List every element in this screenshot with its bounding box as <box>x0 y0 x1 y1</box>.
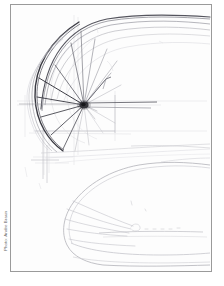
wheel-rim-arc <box>27 22 99 152</box>
horizon-lines <box>41 144 210 163</box>
scanned-sketch-frame <box>10 4 212 272</box>
wheel-hub <box>77 100 91 110</box>
screenshot-page: Photo: Andre Braun <box>0 0 224 286</box>
car-body-outline <box>64 158 210 266</box>
pencil-sketch-drawing <box>11 5 211 271</box>
photo-credit: Photo: Andre Braun <box>3 199 9 263</box>
construction-grid <box>17 15 207 175</box>
fender-sweep-lines <box>41 15 210 111</box>
body-detail-marks <box>131 201 180 231</box>
